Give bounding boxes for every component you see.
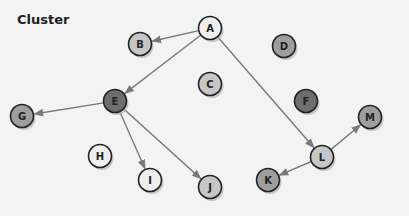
cluster-graph: ABCDEFGHIJKLM — [0, 0, 409, 216]
node-label: C — [206, 79, 213, 90]
node-label: I — [148, 175, 152, 186]
node-label: E — [112, 96, 119, 107]
node-e[interactable]: E — [104, 90, 129, 116]
node-c[interactable]: C — [199, 73, 224, 99]
edge-l-k — [280, 162, 312, 176]
node-i[interactable]: I — [139, 169, 164, 195]
node-label: L — [319, 152, 326, 163]
node-label: D — [280, 41, 288, 52]
node-f[interactable]: F — [295, 90, 320, 116]
node-m[interactable]: M — [359, 106, 384, 132]
node-label: K — [264, 175, 273, 186]
node-k[interactable]: K — [257, 169, 282, 195]
node-label: G — [18, 111, 26, 122]
node-h[interactable]: H — [89, 145, 114, 171]
edge-a-b — [152, 31, 199, 42]
edge-e-i — [120, 112, 145, 169]
node-label: B — [136, 39, 144, 50]
edge-e-g — [34, 103, 103, 114]
edge-e-j — [124, 109, 201, 179]
node-label: F — [303, 96, 310, 107]
node-label: M — [365, 112, 375, 123]
node-g[interactable]: G — [11, 105, 36, 131]
node-d[interactable]: D — [273, 35, 298, 61]
edge-l-m — [331, 125, 361, 150]
node-a[interactable]: A — [199, 17, 224, 43]
node-label: H — [96, 151, 104, 162]
node-b[interactable]: B — [129, 33, 154, 59]
node-label: A — [206, 23, 214, 34]
node-j[interactable]: J — [199, 176, 224, 202]
node-label: J — [207, 182, 212, 193]
